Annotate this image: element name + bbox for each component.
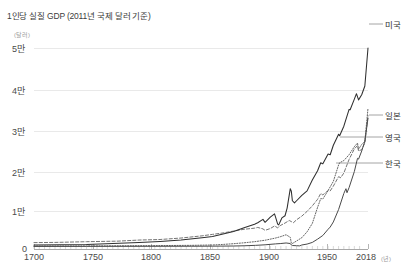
chart-container: 1인당 실질 GDP (2011년 국제 달러 기준) (달러) (년) 5만 … <box>0 0 416 276</box>
leader-lines <box>336 24 383 163</box>
plot-area <box>0 0 416 276</box>
series-line-us <box>34 48 368 245</box>
series-line-kr <box>34 118 368 246</box>
series-lines <box>34 48 368 246</box>
series-line-jp <box>34 108 368 246</box>
series-line-uk <box>34 116 368 243</box>
gridlines <box>34 48 368 211</box>
